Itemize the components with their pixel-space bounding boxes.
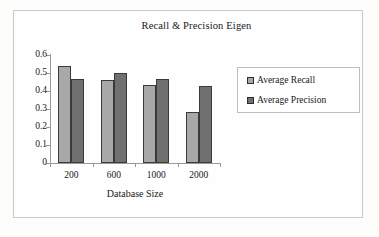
bar-average-recall-1000 <box>143 85 156 163</box>
y-tick-label: 0.3 <box>21 104 47 114</box>
x-tick-label: 200 <box>51 170 91 180</box>
chart-figure: Recall & Precision Eigen 00.10.20.30.40.… <box>0 0 379 237</box>
legend-label-average-precision: Average Precision <box>257 95 326 105</box>
legend-item-average-precision: Average Precision <box>247 95 326 105</box>
y-tick-label: 0.6 <box>21 50 47 60</box>
x-tick-mark <box>178 163 179 167</box>
y-tick-label: 0 <box>21 158 47 168</box>
x-tick-mark <box>93 163 94 167</box>
y-tick-label: 0.4 <box>21 86 47 96</box>
bar-average-recall-200 <box>58 66 71 163</box>
plot-area <box>50 55 218 163</box>
bar-average-recall-600 <box>101 80 114 163</box>
bar-average-precision-1000 <box>156 79 169 163</box>
y-tick-label: 0.1 <box>21 140 47 150</box>
bar-average-recall-2000 <box>186 112 199 163</box>
chart-legend: Average Recall Average Precision <box>237 67 360 113</box>
y-tick-label: 0.2 <box>21 122 47 132</box>
bar-average-precision-200 <box>71 79 84 163</box>
chart-title: Recall & Precision Eigen <box>0 20 379 31</box>
x-tick-label: 1000 <box>136 170 176 180</box>
bar-average-precision-600 <box>114 73 127 163</box>
x-tick-label: 600 <box>94 170 134 180</box>
x-tick-mark <box>220 163 221 167</box>
bar-average-precision-2000 <box>199 86 212 163</box>
legend-item-average-recall: Average Recall <box>247 75 315 85</box>
x-tick-mark <box>50 163 51 167</box>
y-tick-label: 0.5 <box>21 68 47 78</box>
legend-swatch-icon-average-recall <box>247 77 254 84</box>
legend-swatch-icon-average-precision <box>247 97 254 104</box>
x-tick-mark <box>135 163 136 167</box>
legend-label-average-recall: Average Recall <box>257 75 315 85</box>
x-tick-label: 2000 <box>179 170 219 180</box>
x-axis-title: Database Size <box>50 188 220 199</box>
